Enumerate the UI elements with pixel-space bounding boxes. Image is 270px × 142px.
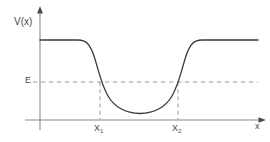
tick-label-x2-subscript: 2 — [178, 128, 181, 134]
x-axis-label: x — [255, 122, 260, 131]
y-axis-label: V(x) — [14, 17, 32, 27]
tick-label-x1-subscript: 1 — [100, 128, 103, 134]
energy-level-label: E — [25, 76, 31, 85]
plot-canvas — [0, 0, 270, 142]
potential-curve — [40, 40, 258, 114]
tick-label-x2: X2 — [172, 124, 181, 133]
y-axis-arrow-icon — [37, 6, 43, 14]
potential-well-figure: V(x) x E X1 X2 — [0, 0, 270, 142]
tick-label-x1: X1 — [94, 124, 103, 133]
